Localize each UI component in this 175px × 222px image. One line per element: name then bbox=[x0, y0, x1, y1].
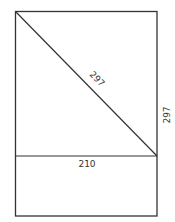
diagonal-line bbox=[16, 12, 158, 157]
diagonal-length-label: 297 bbox=[88, 69, 107, 88]
height-label: 297 bbox=[162, 106, 172, 123]
width-label: 210 bbox=[78, 159, 95, 169]
outer-rectangle bbox=[16, 12, 158, 217]
paper-diagram: 297 210 297 bbox=[0, 0, 175, 222]
